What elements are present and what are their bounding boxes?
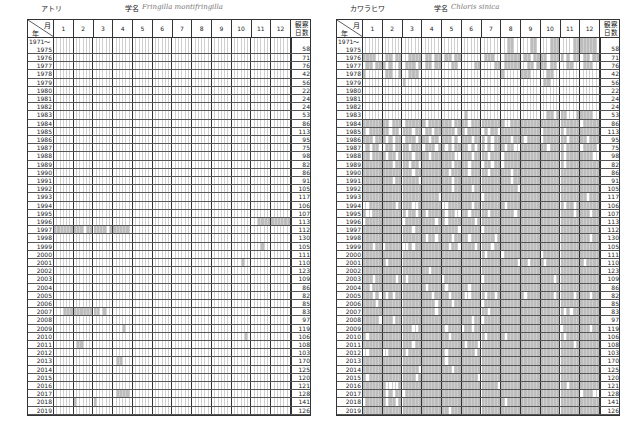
month-header: 3 bbox=[403, 20, 423, 37]
observation-cells bbox=[363, 308, 600, 315]
table-row: 197842 bbox=[28, 70, 310, 78]
year-label: 1999 bbox=[28, 243, 54, 250]
observation-cells bbox=[363, 103, 600, 110]
year-label: 2015 bbox=[28, 374, 54, 381]
observation-cells bbox=[54, 325, 291, 332]
year-label: 2019 bbox=[28, 407, 54, 414]
table-row: 2014125 bbox=[28, 366, 310, 374]
table-row: 1999105 bbox=[28, 243, 310, 251]
observation-cells bbox=[363, 111, 600, 118]
observation-days-value: 75 bbox=[291, 144, 312, 151]
table-row: 200783 bbox=[337, 308, 619, 316]
table-row: 199086 bbox=[28, 169, 310, 177]
observation-days-value: 42 bbox=[291, 70, 312, 77]
year-label: 2014 bbox=[28, 366, 54, 373]
observation-days-value: 58 bbox=[291, 38, 312, 53]
observation-cells bbox=[54, 202, 291, 209]
year-label: 1983 bbox=[28, 111, 54, 118]
observation-cells bbox=[54, 292, 291, 299]
year-label: 2000 bbox=[28, 251, 54, 258]
table-row: 2001110 bbox=[337, 259, 619, 267]
year-label: 1982 bbox=[28, 103, 54, 110]
observation-cells bbox=[54, 243, 291, 250]
observation-cells bbox=[54, 349, 291, 356]
table-row: 1995107 bbox=[337, 210, 619, 218]
observation-days-value: 170 bbox=[291, 357, 312, 364]
observation-days-value: 119 bbox=[600, 325, 621, 332]
observation-days-value: 56 bbox=[291, 79, 312, 86]
observation-days-value: 42 bbox=[600, 70, 621, 77]
month-header: 1 bbox=[363, 20, 383, 37]
table-row: 2003109 bbox=[337, 275, 619, 283]
observation-cells bbox=[54, 308, 291, 315]
table-row: 199086 bbox=[337, 169, 619, 177]
table-row: 198486 bbox=[337, 120, 619, 128]
table-row: 198486 bbox=[28, 120, 310, 128]
year-label: 2005 bbox=[28, 292, 54, 299]
table-row: 1997112 bbox=[28, 226, 310, 234]
scientific-name: Chloris sinica bbox=[451, 3, 499, 11]
year-label: 2004 bbox=[28, 284, 54, 291]
year-label: 2006 bbox=[337, 300, 363, 307]
observation-days-value: 130 bbox=[600, 234, 621, 241]
year-label: 2010 bbox=[28, 333, 54, 340]
observation-cells bbox=[363, 79, 600, 86]
year-label: 2008 bbox=[337, 316, 363, 323]
observation-cells bbox=[363, 161, 600, 168]
observation-cells bbox=[363, 341, 600, 348]
year-label: 2014 bbox=[337, 366, 363, 373]
observation-cells bbox=[54, 407, 291, 414]
observation-grid: 月年123456789101112観察日数1971～19755819767119… bbox=[336, 19, 620, 416]
table-row: 2012103 bbox=[28, 349, 310, 357]
observation-days-value: 109 bbox=[600, 275, 621, 282]
observation-cells bbox=[54, 300, 291, 307]
observation-cells bbox=[54, 177, 291, 184]
year-label: 2003 bbox=[337, 275, 363, 282]
table-row: 1985113 bbox=[28, 128, 310, 136]
observation-cells bbox=[54, 185, 291, 192]
year-label: 2013 bbox=[28, 357, 54, 364]
year-label: 1982 bbox=[337, 103, 363, 110]
observation-days-value: 76 bbox=[291, 62, 312, 69]
count-label-line2: 日数 bbox=[291, 29, 312, 37]
observation-cells bbox=[54, 275, 291, 282]
year-label: 1984 bbox=[28, 120, 54, 127]
observation-days-value: 86 bbox=[600, 284, 621, 291]
year-label: 1977 bbox=[337, 62, 363, 69]
table-row: 197671 bbox=[337, 54, 619, 62]
observation-days-value: 113 bbox=[291, 128, 312, 135]
month-axis-label: 月 bbox=[44, 20, 51, 30]
scientific-name-label: 学名 bbox=[125, 3, 139, 13]
table-row: 1997112 bbox=[337, 226, 619, 234]
observation-cells bbox=[54, 234, 291, 241]
table-row: 200486 bbox=[28, 284, 310, 292]
year-label: 1989 bbox=[28, 161, 54, 168]
observation-days-value: 123 bbox=[291, 267, 312, 274]
table-row: 197671 bbox=[28, 54, 310, 62]
observation-cells bbox=[54, 398, 291, 405]
observation-days-value: 53 bbox=[291, 111, 312, 118]
year-label: 1990 bbox=[28, 169, 54, 176]
observation-days-header: 観察日数 bbox=[291, 20, 312, 37]
observation-cells bbox=[363, 316, 600, 323]
month-header: 12 bbox=[271, 20, 291, 37]
year-label: 1971～1975 bbox=[28, 38, 54, 53]
table-row: 2010106 bbox=[337, 333, 619, 341]
table-row: 2011108 bbox=[28, 341, 310, 349]
corner-header: 月年 bbox=[28, 20, 54, 38]
observation-days-value: 120 bbox=[600, 374, 621, 381]
observation-days-value: 58 bbox=[600, 38, 621, 53]
month-header: 8 bbox=[501, 20, 521, 37]
table-row: 1994106 bbox=[28, 202, 310, 210]
observation-cells bbox=[363, 193, 600, 200]
table-row: 2003109 bbox=[28, 275, 310, 283]
table-row: 198982 bbox=[28, 161, 310, 169]
observation-days-value: 112 bbox=[291, 226, 312, 233]
year-label: 2012 bbox=[337, 349, 363, 356]
observation-days-value: 98 bbox=[600, 152, 621, 159]
observation-days-value: 82 bbox=[291, 161, 312, 168]
year-label: 1989 bbox=[337, 161, 363, 168]
observation-days-value: 130 bbox=[291, 234, 312, 241]
table-row: 198124 bbox=[337, 95, 619, 103]
observation-days-value: 123 bbox=[600, 267, 621, 274]
